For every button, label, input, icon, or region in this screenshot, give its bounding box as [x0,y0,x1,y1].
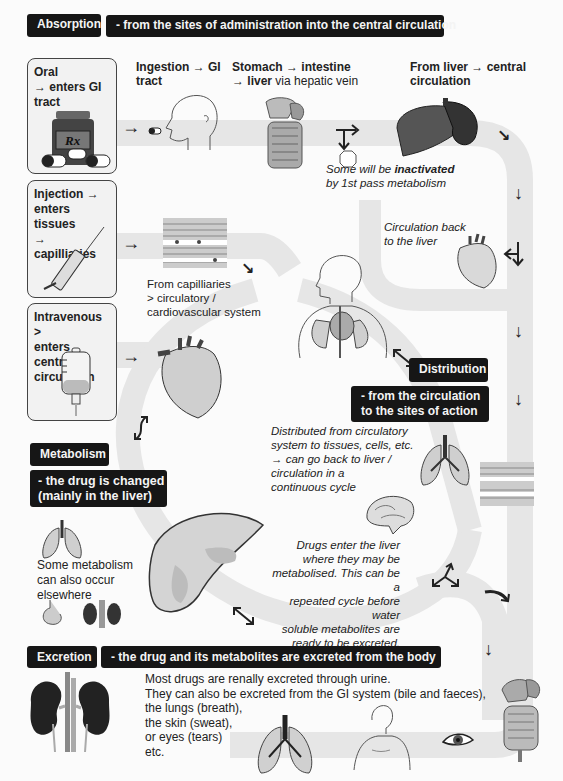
absorption-title: Absorption [27,14,101,37]
excretion-line3: the lungs (breath), [145,701,486,716]
distribution-note-line3: → can go back to liver / [271,452,414,466]
lungs-icon [417,435,473,489]
capillaries-line3: cardiovascular system [147,305,261,319]
metabolism-subtitle-line1: - the drug is changed [38,474,159,489]
liver-note: Drugs enter the liver where they may be … [268,538,400,650]
svg-text:Rx: Rx [64,133,81,148]
inactivated-line1: Some will be inactivated [326,162,454,176]
brain-icon [365,490,417,534]
kidneys-icon-large [25,672,115,752]
absorption-subtitle: - from the sites of administration into … [106,15,444,37]
route-intravenous: Intravenous > enters central circulation [27,303,117,421]
route-oral-line1: Oral [34,65,110,80]
double-arrow-icon-3 [232,606,256,626]
capillaries-line2: > circulatory / [147,291,261,305]
arrow-right-col-1: ↓ [514,184,523,202]
capillary-tissue-icon [163,218,227,268]
metabolism-subtitle: - the drug is changed (mainly in the liv… [30,470,167,507]
from-liver-line1: From liver → central [410,60,526,74]
triple-arrow-icon [431,563,459,589]
pill-bottle-icon: Rx [38,111,118,171]
arrow-capillary-diag: ↘ [241,260,254,278]
stomach-line1: Stomach → intestine [232,60,358,74]
arrow-right-col-4: ↓ [484,640,493,658]
arrow-injection-right: → [122,234,140,252]
inactivated-bold: inactivated [394,163,454,175]
male-torso-icon [352,700,412,770]
stomach-line2-rest: via hepatic vein [272,74,358,88]
distribution-note-line1: Distributed from circulatory [271,424,414,438]
metabolism-elsewhere-note: Some metabolism can also occur elsewhere [37,558,133,603]
lungs-icon-bottom [253,715,317,777]
liver-note-line3: metabolised. This can be a [268,566,400,594]
stomach-label: Stomach → intestine → liver via hepatic … [232,60,358,88]
head-profile-icon [160,88,230,158]
ingestion-line1: Ingestion → GI [136,60,221,74]
heart-icon-large [152,332,232,422]
route-injection: Injection → enters tissues → capilliarie… [27,180,117,298]
arrow-iv-right: → [122,347,140,365]
metabolism-elsewhere-line1: Some metabolism [37,558,133,573]
syringe-icon [42,225,122,295]
distribution-subtitle-line1: - from the circulation [361,389,479,404]
liver-note-line1: Drugs enter the liver [268,538,400,552]
metabolism-subtitle-line2: (mainly in the liver) [38,489,159,504]
iv-bag-icon [58,348,98,418]
distribution-note-line4: circulation in a [271,466,414,480]
excretion-line2: They can also be excreted from the GI sy… [145,687,486,702]
curved-arrow-icon [483,588,511,604]
from-liver-line2: circulation [410,74,526,88]
inactivated-pre: Some will be [326,163,394,175]
branch-back-arrow-icon [504,240,530,270]
capillaries-line1: From capilliaries [147,277,261,291]
stomach-line2: → liver via hepatic vein [232,74,358,88]
stomach-line2-bold: → liver [232,74,272,88]
route-oral: Oral → enters GI tract Rx [27,58,117,174]
arrow-right-col-2: ↓ [514,322,523,340]
liver-note-line2: where they may be [268,552,400,566]
stomach-icon-small [40,600,64,628]
liver-note-line5: soluble metabolites are [268,622,400,636]
ingestion-line2: tract [136,74,221,88]
arrow-oral-right: → [122,118,140,136]
arrow-right-col-3: ↓ [514,390,523,408]
eye-icon [441,732,475,748]
excretion-subtitle: - the drug and its metabolites are excre… [101,646,441,668]
distribution-subtitle-line2: to the sites of action [361,404,479,419]
excretion-title: Excretion [27,646,97,668]
distribution-note-line2: system to tissues, cells, etc. [271,438,414,452]
route-oral-line3: tract [34,95,110,110]
route-oral-line2: → enters GI [34,80,110,95]
arrow-liver-diag: ↘ [497,127,510,145]
route-iv-line1: Intravenous > [34,310,110,340]
from-liver-label: From liver → central circulation [410,60,526,88]
inactivated-line2: by 1st pass metabolism [326,176,454,190]
lungs-icon-small [40,520,84,560]
heart-icon-small [450,232,500,292]
distribution-note: Distributed from circulatory system to t… [271,424,414,494]
liver-stomach-icon [393,98,483,158]
distribution-subtitle: - from the circulation to the sites of a… [351,386,489,422]
metabolism-elsewhere-line2: can also occur [37,573,133,588]
digestive-system-icon [262,96,312,176]
route-injection-line1: Injection → [34,187,110,202]
gi-system-icon [498,676,544,764]
double-arrow-icon-2 [132,415,152,441]
torso-circulation-icon [290,248,400,358]
capillaries-note: From capilliaries > circulatory / cardio… [147,277,261,319]
liver-icon-large [145,505,265,620]
metabolism-title: Metabolism [30,443,109,466]
liver-note-line4: repeated cycle before water [268,594,400,622]
excretion-line1: Most drugs are renally excreted through … [145,672,486,687]
distribution-title: Distribution [409,358,488,382]
kidneys-icon-small [82,598,122,628]
inactivated-note: Some will be inactivated by 1st pass met… [326,162,454,190]
ingestion-label: Ingestion → GI tract [136,60,221,88]
muscle-tissue-icon [480,462,534,506]
